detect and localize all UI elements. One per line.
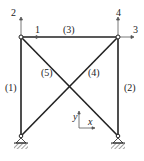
truss-members (21, 37, 118, 136)
member-label-5: (5) (41, 67, 53, 79)
pin-support-right (111, 134, 125, 149)
dof-label-3: 3 (133, 24, 138, 35)
node-top-right (116, 35, 120, 39)
member-label-1: (1) (5, 82, 17, 94)
dof-label-2: 2 (11, 7, 16, 18)
axis-label-x: x (87, 116, 93, 127)
member-label-3: (3) (63, 24, 75, 36)
axis-label-y: y (72, 111, 78, 122)
dof-label-4: 4 (116, 7, 121, 18)
member-label-2: (2) (124, 82, 136, 94)
member-label-4: (4) (88, 67, 100, 79)
pin-support-left (14, 134, 28, 149)
dof-label-1: 1 (35, 24, 40, 35)
truss-diagram: 1 2 3 4 (1) (2) (3) (4) (5) y x (0, 0, 144, 161)
node-top-left (19, 35, 23, 39)
